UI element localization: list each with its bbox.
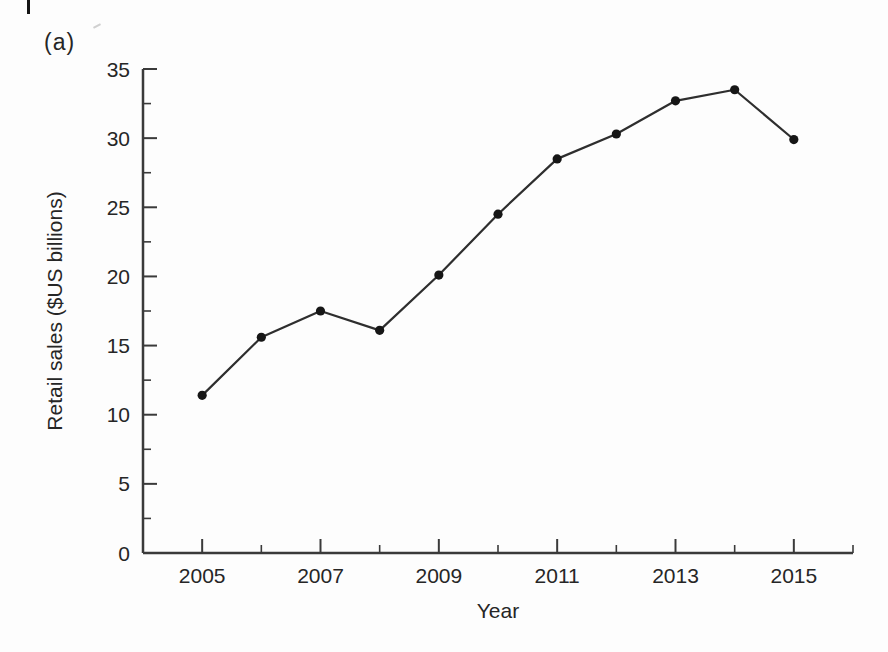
y-tick-label: 15 xyxy=(107,334,130,357)
data-point xyxy=(612,129,621,138)
data-point xyxy=(198,391,207,400)
x-tick-label: 2011 xyxy=(535,564,580,587)
data-point xyxy=(493,210,502,219)
retail-sales-line-chart: 05101520253035200520072009201120132015Ye… xyxy=(0,0,888,652)
data-point xyxy=(553,154,562,163)
y-tick-label: 20 xyxy=(107,265,130,288)
y-tick-label: 35 xyxy=(107,58,130,81)
x-tick-label: 2009 xyxy=(415,564,462,587)
y-axis-title: Retail sales ($US billions) xyxy=(43,191,66,430)
data-point xyxy=(730,85,739,94)
data-point xyxy=(257,333,266,342)
y-tick-label: 25 xyxy=(107,196,130,219)
data-point xyxy=(789,135,798,144)
x-tick-label: 2007 xyxy=(297,564,344,587)
x-tick-label: 2005 xyxy=(179,564,226,587)
y-tick-label: 10 xyxy=(107,403,130,426)
y-tick-label: 30 xyxy=(107,127,130,150)
x-tick-label: 2015 xyxy=(770,564,817,587)
y-tick-label: 5 xyxy=(118,472,130,495)
x-tick-label: 2013 xyxy=(652,564,699,587)
y-tick-label: 0 xyxy=(118,542,130,565)
data-point xyxy=(434,270,443,279)
data-point xyxy=(671,96,680,105)
x-axis-title: Year xyxy=(477,599,519,622)
series-line xyxy=(202,90,794,396)
data-point xyxy=(375,326,384,335)
scanned-figure-page: (a) 051015202530352005200720092011201320… xyxy=(0,0,888,652)
data-point xyxy=(316,306,325,315)
